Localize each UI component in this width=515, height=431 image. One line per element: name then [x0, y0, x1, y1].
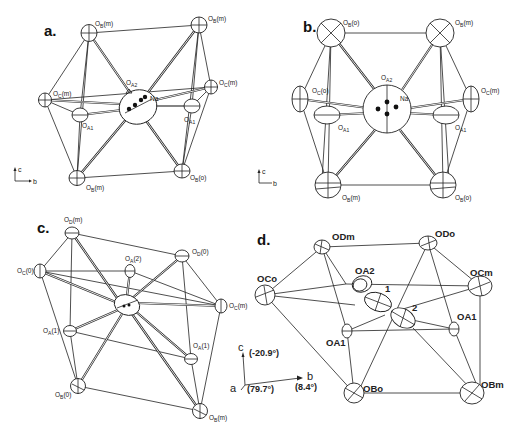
label-c-OD-m: OD(m): [64, 216, 82, 225]
label-c-OA-2: OA(2): [125, 255, 141, 264]
panel-label-b: b.: [303, 18, 316, 35]
atom-c-OA-2: [125, 265, 135, 278]
label-d-site-2: 2: [412, 302, 417, 313]
na-site-dot: [128, 304, 131, 307]
label-a-OA1-2: OA1: [184, 116, 195, 125]
atom-b-OA1-left: [314, 106, 340, 124]
label-d-OBm: OBm: [481, 379, 504, 390]
atom-d-OCo: [255, 285, 275, 305]
label-b-OA1-2: OA1: [455, 124, 466, 133]
axis-b-angle: (8.4°): [295, 382, 317, 392]
label-d-OCo: OCo: [257, 273, 277, 284]
axis-c-label: c: [238, 341, 244, 353]
axis-a-angle: (79.7°): [247, 384, 274, 394]
axis-c-angle: (-20.9°): [249, 348, 279, 358]
label-d-OA2: OA2: [355, 265, 375, 276]
na-site-dot: [133, 103, 137, 107]
atom-d-ODm: [314, 240, 330, 254]
label-a-OB-m: OB(m): [95, 20, 113, 29]
axis-a-label: a: [230, 382, 237, 394]
label-c-OB-m: OB(m): [209, 414, 227, 423]
label-b-OB-o: OB(o): [343, 19, 359, 28]
label-b-OA2: OA2: [381, 74, 392, 83]
label-b-Na: Na: [400, 95, 409, 102]
na-site-dot: [376, 107, 381, 112]
panel-label-c: c.: [37, 219, 50, 236]
atom-c-OB-m: [193, 403, 208, 419]
atom-a-OC-m-right: [204, 80, 218, 94]
atom-b-OA1-right: [433, 106, 459, 124]
label-b-OB-m: OB(m): [455, 19, 473, 28]
panel-b: b.: [258, 18, 500, 203]
atom-a-OB-m-bottom-left: [69, 170, 85, 186]
atom-c-OC-0: [34, 264, 46, 278]
axis-c-label: c: [18, 166, 22, 173]
atom-b-OB-m-bottom-left: [315, 172, 341, 198]
label-b-OB-o-2: OB(o): [455, 194, 471, 203]
na-site-dot: [394, 105, 399, 110]
atom-d-OA1-left: [342, 324, 352, 338]
label-c-OC-0: OC(0): [17, 267, 34, 276]
label-b-OC-o: OC(o): [312, 87, 329, 96]
label-a-OC-m: OC(m): [53, 90, 71, 99]
label-d-OBo: OBo: [363, 383, 383, 394]
axis-b-label: b: [307, 370, 313, 382]
atom-b-OB-o-bottom-right: [430, 172, 456, 198]
label-b-OC-m: OC(m): [481, 87, 499, 96]
atom-d-OA2: [350, 273, 374, 295]
panel-label-d: d.: [257, 231, 270, 248]
atom-b-OC-o-left: [292, 86, 308, 112]
label-c-OA-1: OA(1): [43, 327, 59, 336]
label-d-site-1: 1: [385, 283, 391, 294]
crystal-structure-figure: a.: [0, 0, 515, 431]
atom-c-OC-m: [215, 299, 227, 313]
panel-c: c.: [17, 216, 247, 423]
atom-c-OA-1-right: [185, 354, 198, 365]
atom-c-OD-m: [65, 227, 79, 239]
label-d-ODm: ODm: [332, 231, 355, 242]
atom-b-OC-m-right: [463, 86, 479, 112]
panel-d: d.: [230, 228, 504, 404]
panel-label-a: a.: [44, 22, 57, 39]
label-a-OB-m-2: OB(m): [208, 15, 226, 24]
label-c-OB-0: OB(0): [55, 391, 71, 400]
atom-d-OA1-right: [449, 322, 459, 336]
atom-d-OBo: [344, 383, 364, 403]
label-c-OD-0: OD(0): [192, 248, 209, 257]
label-d-ODo: ODo: [435, 228, 455, 239]
label-d-OA1: OA1: [326, 337, 346, 348]
label-c-OA-1-2: OA(1): [193, 342, 209, 351]
axes-b: c b: [258, 168, 278, 187]
axes-d: c (-20.9°) a (79.7°) b (8.4°): [230, 341, 317, 394]
panel-a: a.: [14, 15, 238, 193]
axes-a: c b: [14, 166, 38, 185]
label-b-OB-m-2: OB(m): [342, 194, 360, 203]
atom-c-OA-1-left: [64, 326, 77, 337]
label-a-OA2: OA2: [126, 79, 137, 88]
atom-b-OB-o-top-left: [317, 19, 345, 47]
atom-c-OB-0: [71, 378, 86, 394]
atom-b-OB-m-top-right: [426, 19, 454, 47]
atom-a-OB-m-top-left: [81, 25, 97, 42]
label-a-OC-m-2: OC(m): [219, 79, 237, 88]
na-site-dot: [127, 107, 131, 111]
label-a-OB-o: OB(o): [190, 174, 206, 183]
axis-b-label: b: [273, 180, 277, 187]
label-b-OA1: OA1: [338, 124, 349, 133]
atom-a-OA1-right: [184, 99, 200, 113]
atom-d-OCm: [468, 276, 492, 296]
na-site-dot: [385, 112, 390, 117]
na-site-dot: [123, 305, 126, 308]
na-site-dot: [139, 98, 143, 102]
axis-b-label: b: [33, 178, 37, 185]
axis-c-label: c: [262, 168, 266, 175]
label-d-OCm: OCm: [470, 267, 493, 278]
na-site-dot: [385, 100, 390, 105]
label-c-OC-m: OC(m): [229, 302, 247, 311]
na-site-dot: [143, 95, 147, 99]
atom-b-Na: [363, 85, 411, 133]
label-a-OB-m-3: OB(m): [86, 184, 104, 193]
atom-a-OB-o-bottom-right: [174, 164, 190, 178]
label-d-OA1-2: OA1: [457, 311, 477, 322]
label-a-OA1: OA1: [82, 122, 93, 131]
